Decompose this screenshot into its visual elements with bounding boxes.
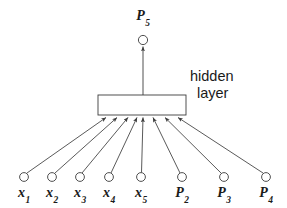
node-label-x4: x4 <box>103 186 115 203</box>
node-label-x2-sub: 2 <box>53 195 58 205</box>
node-label-P2-sub: 2 <box>184 195 189 205</box>
node-label-P3: P3 <box>217 186 231 203</box>
node-label-x5: x5 <box>135 186 147 203</box>
node-label-x1: x1 <box>18 186 30 203</box>
hidden-layer-caption-line1: hidden <box>190 68 234 84</box>
node-label-x2-base: x <box>46 185 53 200</box>
edge-P4-to-hidden <box>178 118 263 174</box>
edge-x4-to-hidden <box>111 118 137 174</box>
node-label-x1-base: x <box>18 185 25 200</box>
node-circle-x2 <box>48 173 57 182</box>
node-label-P5: P5 <box>136 9 150 26</box>
node-circle-P3 <box>220 173 229 182</box>
node-label-x4-sub: 4 <box>110 195 115 205</box>
edge-P3-to-hidden <box>165 118 221 174</box>
node-circle-x5 <box>137 173 146 182</box>
node-label-P4-sub: 4 <box>268 195 273 205</box>
hidden-layer-box <box>98 95 186 115</box>
node-circle-x4 <box>105 173 114 182</box>
hidden-layer-caption: hiddenlayer <box>190 68 234 102</box>
edge-x5-to-hidden <box>142 118 144 173</box>
node-label-x3-base: x <box>74 185 81 200</box>
node-circle-P4 <box>262 173 271 182</box>
node-label-x1-sub: 1 <box>25 195 30 205</box>
node-circle-x1 <box>20 173 29 182</box>
edge-P2-to-hidden <box>153 118 180 174</box>
node-label-P5-base: P <box>136 8 145 23</box>
node-label-x5-base: x <box>135 185 142 200</box>
node-label-x3-sub: 3 <box>81 195 86 205</box>
node-label-P4: P4 <box>259 186 273 203</box>
node-label-P2-base: P <box>175 185 184 200</box>
node-label-x5-sub: 5 <box>142 195 147 205</box>
node-label-x2: x2 <box>46 186 58 203</box>
edge-x3-to-hidden <box>82 118 128 174</box>
input-edge-group <box>27 118 263 174</box>
node-label-P3-sub: 3 <box>226 195 231 205</box>
edge-x2-to-hidden <box>55 118 117 174</box>
hidden-layer-caption-line2: layer <box>190 85 234 102</box>
node-label-P2: P2 <box>175 186 189 203</box>
node-label-x4-base: x <box>103 185 110 200</box>
neural-network-diagram: P5 x1 x2 x3 x4 x5 P2 P3 P4 hiddenlayer <box>0 0 287 208</box>
edge-x1-to-hidden <box>27 118 106 174</box>
node-circle-P2 <box>178 173 187 182</box>
node-label-P4-base: P <box>259 185 268 200</box>
node-label-P3-base: P <box>217 185 226 200</box>
node-circle-P5 <box>138 35 147 44</box>
diagram-canvas <box>0 0 287 208</box>
node-label-x3: x3 <box>74 186 86 203</box>
node-circle-x3 <box>76 173 85 182</box>
node-label-P5-sub: 5 <box>145 18 150 28</box>
